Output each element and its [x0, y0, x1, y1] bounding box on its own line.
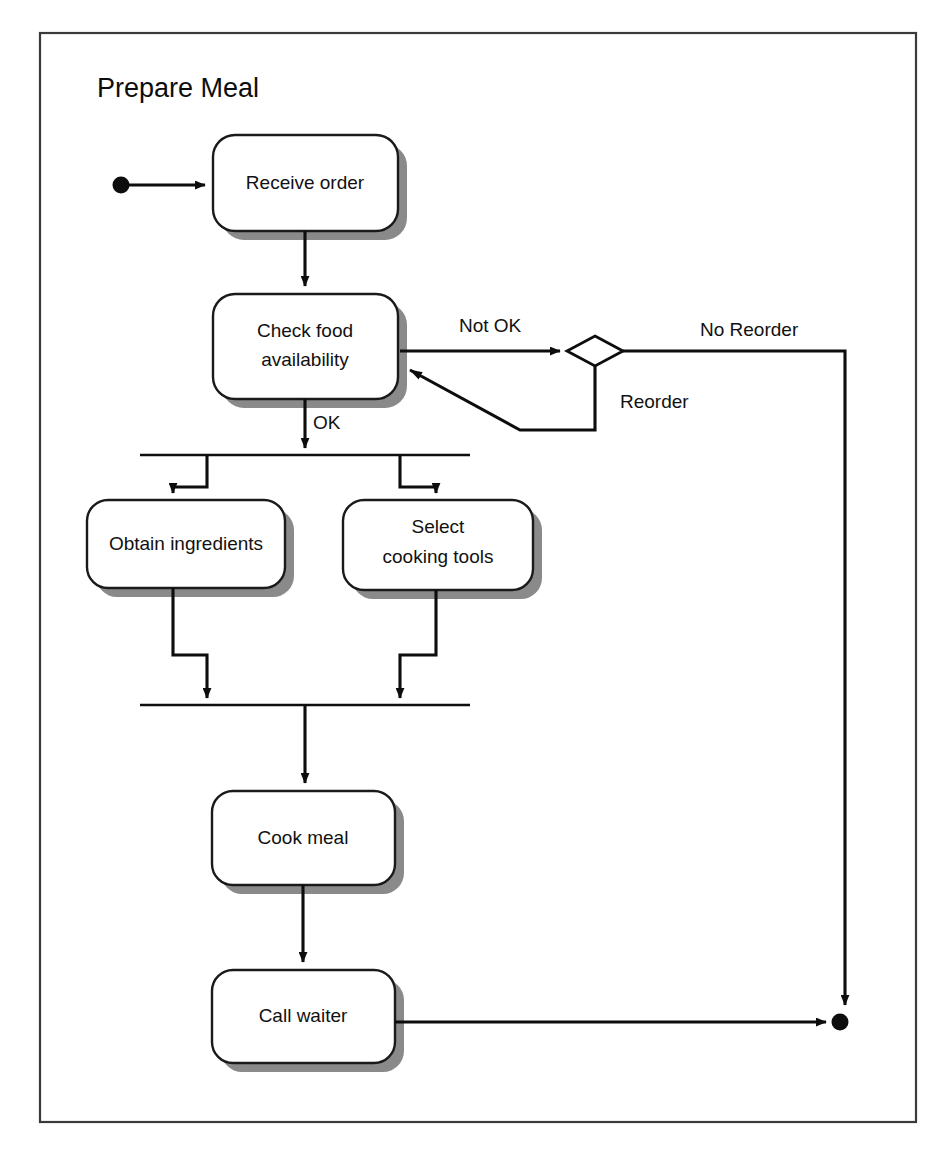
activity-cook-meal[interactable]: Cook meal — [212, 791, 404, 894]
activity-receive-order[interactable]: Receive order — [213, 135, 407, 240]
page-title: Prepare Meal — [97, 73, 259, 103]
activity-check-food-availability[interactable]: Check food availability — [213, 294, 407, 408]
guard-not-ok: Not OK — [459, 315, 522, 336]
activity-obtain-ingredients[interactable]: Obtain ingredients — [87, 500, 294, 597]
activity-label: Call waiter — [259, 1005, 348, 1026]
activity-box — [343, 500, 533, 590]
activity-box — [213, 294, 398, 399]
activity-label-line-2: availability — [261, 349, 349, 370]
activity-label: Obtain ingredients — [109, 533, 263, 554]
guard-reorder: Reorder — [620, 391, 689, 412]
activity-label: Cook meal — [258, 827, 349, 848]
guard-no-reorder: No Reorder — [700, 319, 799, 340]
activity-diagram-root: Prepare Meal Receive order Check food av… — [0, 0, 951, 1158]
guard-ok: OK — [313, 412, 341, 433]
activity-diagram-canvas: Prepare Meal Receive order Check food av… — [0, 0, 951, 1158]
activity-label-line-1: Check food — [257, 320, 353, 341]
activity-label: Receive order — [246, 172, 365, 193]
activity-label-line-2: cooking tools — [383, 546, 494, 567]
activity-label-line-1: Select — [412, 516, 466, 537]
activity-select-cooking-tools[interactable]: Select cooking tools — [343, 500, 542, 599]
final-node — [832, 1014, 849, 1031]
activity-call-waiter[interactable]: Call waiter — [212, 970, 404, 1072]
